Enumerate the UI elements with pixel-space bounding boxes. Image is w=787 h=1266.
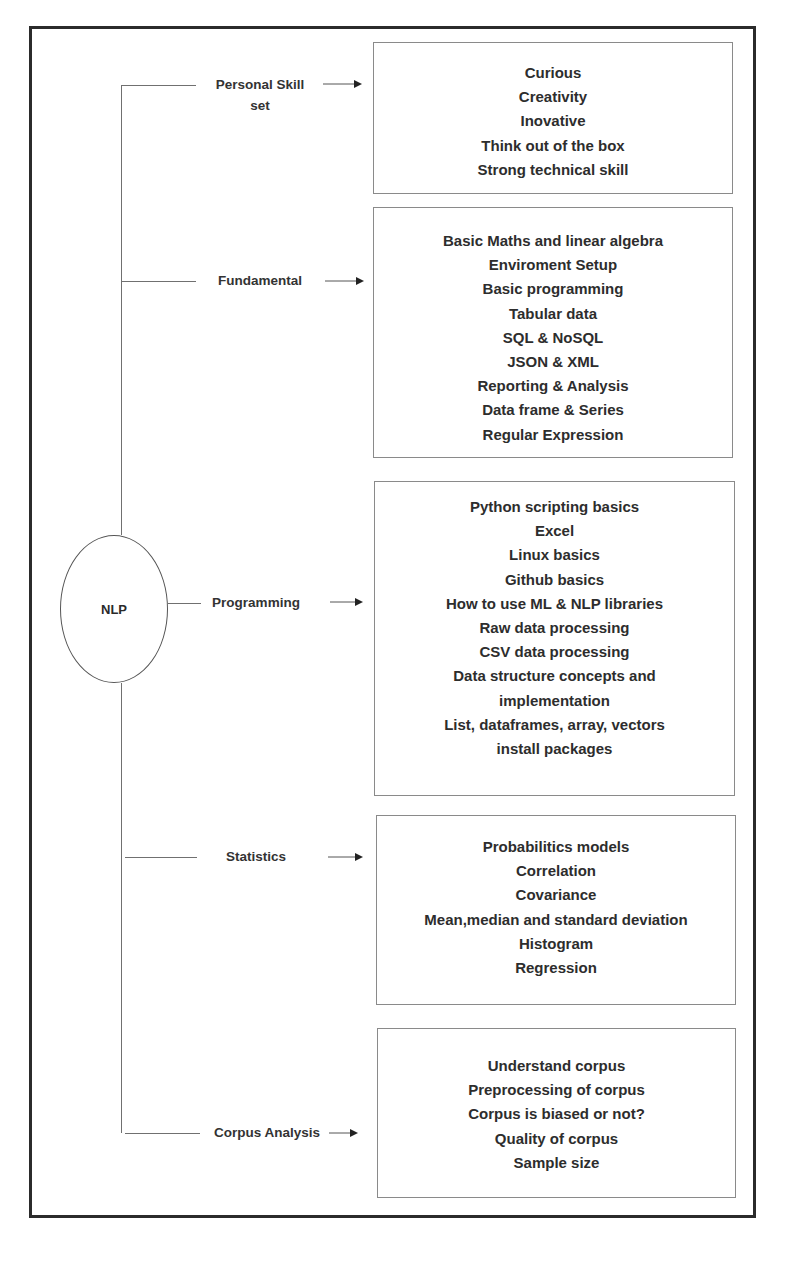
list-item: install packages (497, 737, 613, 761)
trunk-line-bottom (121, 683, 122, 1133)
list-item: Regression (515, 956, 597, 980)
connector-corpus-analysis (125, 1133, 200, 1134)
list-item: Covariance (516, 883, 597, 907)
branch-label-fundamental: Fundamental (200, 270, 320, 291)
trunk-line-top (121, 85, 122, 535)
arrow-icon (323, 79, 363, 89)
list-item: Curious (525, 61, 582, 85)
list-item: Understand corpus (488, 1054, 626, 1078)
list-item: Raw data processing (479, 616, 629, 640)
list-item: Reporting & Analysis (477, 374, 628, 398)
branch-label-programming: Programming (200, 592, 312, 613)
list-item: Probabilitics models (483, 835, 630, 859)
list-item: Data structure concepts and (453, 664, 656, 688)
arrow-icon (325, 276, 365, 286)
branch-label-statistics: Statistics (200, 846, 312, 867)
list-item: Mean,median and standard deviation (424, 908, 687, 932)
branch-label-personal-skill: Personal Skill set (200, 74, 320, 116)
connector-programming (168, 603, 201, 604)
list-item: Enviroment Setup (489, 253, 617, 277)
root-node-nlp: NLP (60, 535, 168, 683)
connector-personal-skill (121, 85, 196, 86)
arrow-icon (330, 597, 364, 607)
list-item: Github basics (505, 568, 604, 592)
list-item: Strong technical skill (478, 158, 629, 182)
list-item: Data frame & Series (482, 398, 624, 422)
list-item: Quality of corpus (495, 1127, 618, 1151)
skills-box-fundamental: Basic Maths and linear algebra Enviromen… (373, 207, 733, 458)
list-item: Excel (535, 519, 574, 543)
list-item: Preprocessing of corpus (468, 1078, 645, 1102)
list-item: Python scripting basics (470, 495, 639, 519)
list-item: Basic programming (483, 277, 624, 301)
connector-statistics (125, 857, 197, 858)
list-item: List, dataframes, array, vectors (444, 713, 665, 737)
list-item: How to use ML & NLP libraries (446, 592, 663, 616)
skills-box-corpus-analysis: Understand corpus Preprocessing of corpu… (377, 1028, 736, 1198)
list-item: implementation (499, 689, 610, 713)
branch-label-corpus-analysis: Corpus Analysis (207, 1122, 327, 1143)
list-item: Creativity (519, 85, 587, 109)
arrow-icon (328, 852, 364, 862)
arrow-icon (329, 1128, 359, 1138)
list-item: Sample size (514, 1151, 600, 1175)
list-item: SQL & NoSQL (503, 326, 604, 350)
connector-fundamental (121, 281, 196, 282)
list-item: Tabular data (509, 302, 597, 326)
list-item: CSV data processing (479, 640, 629, 664)
skills-box-statistics: Probabilitics models Correlation Covaria… (376, 815, 736, 1005)
list-item: Histogram (519, 932, 593, 956)
list-item: Think out of the box (481, 134, 624, 158)
root-label: NLP (101, 602, 127, 617)
list-item: JSON & XML (507, 350, 599, 374)
list-item: Basic Maths and linear algebra (443, 229, 663, 253)
skills-box-programming: Python scripting basics Excel Linux basi… (374, 481, 735, 796)
skills-box-personal: Curious Creativity Inovative Think out o… (373, 42, 733, 194)
list-item: Correlation (516, 859, 596, 883)
list-item: Inovative (520, 109, 585, 133)
list-item: Corpus is biased or not? (468, 1102, 645, 1126)
list-item: Linux basics (509, 543, 600, 567)
list-item: Regular Expression (483, 423, 624, 447)
